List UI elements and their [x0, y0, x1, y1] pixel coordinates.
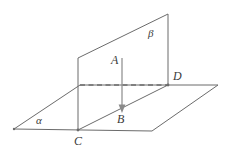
plane-alpha-outline: [14, 85, 218, 131]
vertex-c-dot: [77, 129, 80, 132]
plane-label-beta: β: [148, 28, 153, 39]
point-label-c: C: [74, 135, 82, 147]
vertex-d-dot: [167, 84, 170, 87]
geometry-figure: A B C D α β: [0, 0, 231, 157]
point-label-a: A: [111, 54, 118, 66]
point-label-d: D: [173, 70, 182, 82]
plane-label-alpha: α: [36, 115, 42, 126]
vertex-alpha-left-dot: [13, 128, 15, 130]
geometry-canvas: [0, 0, 231, 157]
point-label-b: B: [117, 113, 124, 125]
